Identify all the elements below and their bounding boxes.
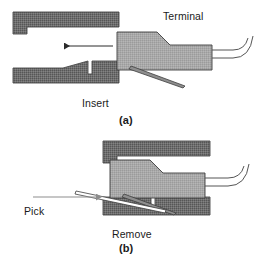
- wire-lower-line-b: [205, 164, 249, 186]
- connector-terminal-diagram: [0, 0, 260, 258]
- wire-upper-line-a: [212, 38, 248, 50]
- label-remove: Remove: [112, 228, 152, 240]
- connector-housing-lower-a: [13, 61, 119, 83]
- label-terminal: Terminal: [163, 10, 203, 22]
- label-pick: Pick: [24, 205, 44, 217]
- panel-b-group: [33, 141, 249, 215]
- label-panel-b: (b): [119, 242, 133, 254]
- figure-container: Terminal Insert (a) Pick Remove (b): [0, 0, 260, 258]
- wire-lower-line-a: [212, 36, 253, 58]
- panel-a-group: [13, 12, 253, 88]
- terminal-body-a: [117, 32, 212, 70]
- label-panel-a: (a): [119, 114, 133, 126]
- label-insert: Insert: [82, 97, 109, 109]
- connector-housing-upper-a: [13, 12, 119, 34]
- wire-upper-line-b: [205, 166, 244, 178]
- terminal-body-b: [110, 160, 205, 198]
